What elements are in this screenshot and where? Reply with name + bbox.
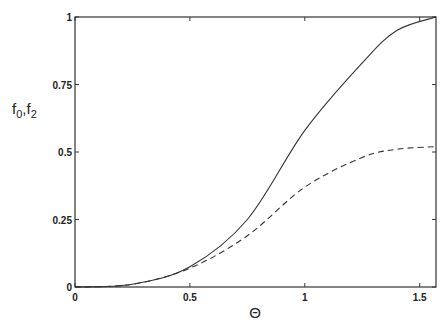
- y-tick-label: 0: [66, 282, 72, 293]
- x-tick-label: 1.5: [413, 292, 427, 303]
- plot-frame: [75, 17, 436, 287]
- x-axis-label: Θ: [249, 304, 261, 321]
- axis-ticks: 00.511.500.250.50.751: [53, 12, 436, 303]
- chart: 00.511.500.250.50.751 Θ f0,f2: [0, 0, 448, 325]
- series-f2-line: [75, 147, 436, 287]
- y-tick-label: 0.75: [53, 80, 73, 91]
- y-axis-label: f0,f2: [12, 100, 37, 120]
- y-tick-label: 0.25: [53, 215, 73, 226]
- x-tick-label: 1: [302, 292, 308, 303]
- x-tick-label: 0.5: [183, 292, 197, 303]
- x-tick-label: 0: [72, 292, 78, 303]
- data-lines: [75, 17, 436, 287]
- series-f0-line: [75, 17, 436, 287]
- y-tick-label: 0.5: [58, 147, 72, 158]
- y-tick-label: 1: [66, 12, 72, 23]
